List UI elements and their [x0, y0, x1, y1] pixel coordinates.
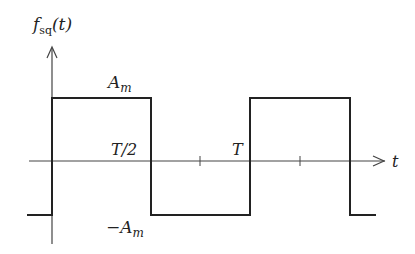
square-wave-diagram: fsq(t) Am −Am T/2 T t: [0, 0, 415, 254]
amplitude-pos-label: Am: [106, 72, 132, 95]
square-wave-signal: [27, 98, 376, 215]
period-label: T: [232, 140, 244, 159]
x-axis-label: t: [392, 152, 399, 171]
amplitude-neg-label: −Am: [106, 217, 144, 240]
y-axis-label: fsq(t): [31, 14, 72, 37]
half-period-label: T/2: [111, 140, 137, 159]
